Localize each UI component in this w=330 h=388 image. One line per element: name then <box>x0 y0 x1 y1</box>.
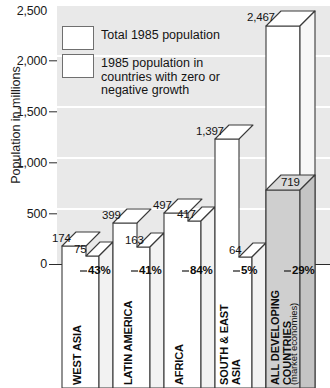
legend-label-total: Total 1985 population <box>101 26 220 43</box>
value-label-africa-total: 497 <box>153 199 172 211</box>
share-label-west-asia: 43% <box>88 264 110 276</box>
value-label-all-developing-sub: 719 <box>281 176 300 188</box>
value-label-all-developing-total: 2,467 <box>247 11 275 23</box>
value-label-west-asia-sub: 75 <box>74 243 86 255</box>
category-label-south-east-asia-line1: SOUTH & EASTASIA <box>218 304 242 385</box>
share-label-south-east-asia: 5% <box>241 264 257 276</box>
value-label-latin-america-total: 399 <box>102 209 121 221</box>
value-label-south-east-asia-sub: 64 <box>229 244 241 256</box>
bar-group-africa <box>164 199 215 388</box>
legend-swatch-total <box>62 26 94 50</box>
share-label-all-developing: 29% <box>292 264 314 276</box>
category-sublabel-all-developing: (market economies) <box>288 303 300 385</box>
share-label-latin-america: 41% <box>139 264 161 276</box>
legend-item-total: Total 1985 population <box>62 26 252 50</box>
category-label-africa: AFRICA <box>174 344 186 385</box>
value-label-africa-sub: 417 <box>177 208 196 220</box>
value-label-south-east-asia-total: 1,397 <box>196 125 224 137</box>
category-label-latin-america: LATIN AMERICA <box>123 301 135 385</box>
share-label-africa: 84% <box>190 264 212 276</box>
category-label-south-east-asia: SOUTH & EASTASIA <box>219 304 242 385</box>
legend-label-zero-growth: 1985 population in countries with zero o… <box>101 54 252 98</box>
category-label-west-asia: WEST ASIA <box>72 325 84 385</box>
value-label-west-asia-total: 174 <box>52 232 71 244</box>
legend: Total 1985 population 1985 population in… <box>62 26 252 102</box>
legend-swatch-zero-growth <box>62 54 94 78</box>
legend-item-zero-growth: 1985 population in countries with zero o… <box>62 54 252 98</box>
bar-group-west-asia <box>62 232 113 388</box>
value-label-latin-america-sub: 163 <box>125 234 144 246</box>
